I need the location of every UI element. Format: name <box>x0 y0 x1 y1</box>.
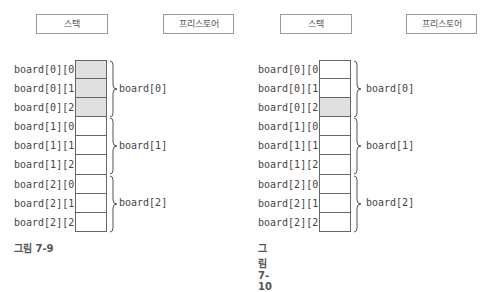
cell-label: board[0][2] <box>258 98 324 117</box>
group-label: board[1] <box>366 140 414 151</box>
cell-labels: board[0][0] board[0][1] board[0][2] boar… <box>258 60 324 232</box>
memory-cell <box>319 79 351 98</box>
memory-cell <box>319 117 351 136</box>
brace-icon <box>353 60 363 118</box>
cell-label: board[2][0] <box>258 175 324 194</box>
group-label: board[0] <box>366 83 414 94</box>
memory-cells <box>319 60 351 232</box>
brace-icon <box>353 117 363 175</box>
memory-cell <box>319 175 351 194</box>
cell-label: board[2][2] <box>258 213 324 232</box>
cell-label: board[1][0] <box>258 117 324 136</box>
freestore-box: 프리스토어 <box>406 14 477 34</box>
cell-label: board[0][1] <box>258 79 324 98</box>
memory-cell <box>319 155 351 174</box>
group-label: board[2] <box>366 197 414 208</box>
cell-label: board[1][1] <box>258 136 324 155</box>
brace-icon <box>353 175 363 233</box>
figure-caption: 그림 7-10 <box>258 240 272 292</box>
cell-label: board[1][2] <box>258 155 324 174</box>
cell-label: board[2][1] <box>258 194 324 213</box>
memory-cell <box>319 60 351 79</box>
figure-7-10: 스택 프리스토어 board[0][0] board[0][1] board[0… <box>0 0 246 267</box>
memory-cell <box>319 98 351 117</box>
memory-cell <box>319 213 351 232</box>
memory-cell <box>319 136 351 155</box>
stack-box: 스택 <box>280 14 352 34</box>
memory-cell <box>319 194 351 213</box>
cell-label: board[0][0] <box>258 60 324 79</box>
